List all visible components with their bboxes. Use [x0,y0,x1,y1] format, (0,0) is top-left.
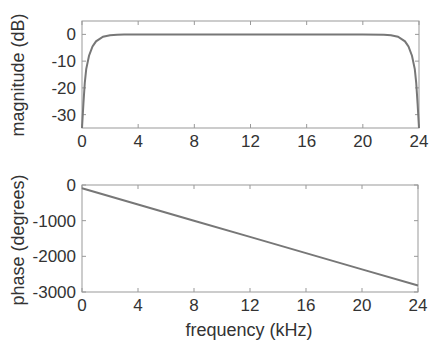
x-tick-label: 24 [410,132,429,151]
x-tick-label: 4 [133,296,142,315]
x-tick-label: 20 [353,132,372,151]
x-tick-label: 16 [297,132,316,151]
x-tick-label: 8 [189,296,198,315]
magnitude-x-tick-labels: 04812162024 [77,132,428,151]
phase-y-tick-labels: 0-1000-2000-3000 [33,176,76,302]
frequency-x-axis-label: frequency (kHz) [185,320,312,340]
phase-axes-frame [82,185,418,292]
x-tick-label: 4 [133,132,142,151]
phase-x-tick-labels: 04812162024 [77,296,427,315]
y-tick-label: -20 [51,79,76,98]
x-tick-label: 0 [77,296,86,315]
y-tick-label: 0 [67,25,76,44]
x-tick-label: 12 [241,132,260,151]
magnitude-axes-frame [82,21,419,128]
x-tick-label: 24 [409,296,428,315]
phase-y-axis-label: phase (degrees) [8,174,28,305]
phase-plot: 04812162024 0-1000-2000-3000 phase (degr… [8,174,427,340]
y-tick-label: -2000 [33,247,76,266]
y-tick-label: -30 [51,106,76,125]
x-tick-label: 12 [241,296,260,315]
y-tick-label: -10 [51,52,76,71]
x-tick-label: 20 [353,296,372,315]
y-tick-label: -1000 [33,212,76,231]
x-tick-label: 16 [297,296,316,315]
y-tick-label: 0 [67,176,76,195]
magnitude-plot: 04812162024 0-10-20-30 magnitude (dB) [8,13,428,151]
magnitude-y-axis-label: magnitude (dB) [8,13,28,136]
bode-plot: 04812162024 0-10-20-30 magnitude (dB) 04… [0,0,440,355]
magnitude-y-tick-labels: 0-10-20-30 [51,25,76,124]
x-tick-label: 8 [190,132,199,151]
x-tick-label: 0 [77,132,86,151]
y-tick-label: -3000 [33,283,76,302]
